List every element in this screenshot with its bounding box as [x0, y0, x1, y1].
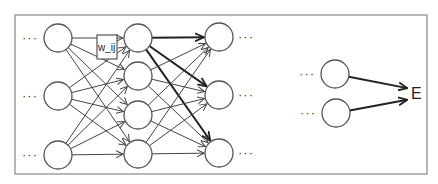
neuron-node [124, 101, 152, 129]
output-neuron-node [322, 99, 350, 127]
ellipsis-right: ··· [238, 29, 254, 44]
neuron-node [124, 140, 152, 168]
ellipsis-left: ··· [22, 30, 38, 45]
neuron-node [205, 23, 233, 51]
output-neuron-node [321, 60, 349, 88]
neural-network-diagram: ························ w_ij E [0, 0, 438, 184]
neuron-node [205, 81, 233, 109]
ellipsis-right: ··· [238, 145, 254, 160]
neuron-node [44, 141, 72, 169]
ellipsis-output: ··· [300, 105, 316, 120]
error-label: E [411, 85, 422, 102]
ellipsis-left: ··· [22, 147, 38, 162]
neuron-node [124, 62, 152, 90]
ellipsis-right: ··· [238, 87, 254, 102]
ellipsis-output: ··· [299, 66, 315, 81]
weight-label: w_ij [97, 42, 115, 53]
neuron-node [124, 24, 152, 52]
connection-arrow [72, 154, 123, 155]
neuron-node [205, 139, 233, 167]
bold-connection-arrow [152, 37, 204, 38]
neuron-node [44, 82, 72, 110]
neuron-node [44, 24, 72, 52]
ellipsis-left: ··· [22, 88, 38, 103]
weight-annotation: w_ij [97, 35, 117, 59]
connection-arrow [152, 153, 204, 154]
